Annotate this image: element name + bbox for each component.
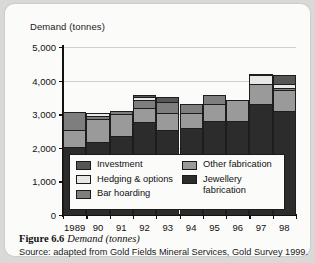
page-background: Demand (tonnes) 01,0002,0003,0004,0005,0… [0,0,315,263]
bar-segment [180,104,203,112]
bar-segment [86,116,109,119]
y-tick-label: 0 [51,210,56,221]
bar-segment [133,100,156,108]
bar-segment [249,84,272,104]
x-tick [63,215,64,219]
bar-segment [273,90,296,110]
bar-segment [273,75,296,84]
x-tick-label: 98 [279,222,290,233]
bar-segment [249,75,272,84]
legend-swatch-hedging_options [76,175,91,184]
bar-segment [273,88,296,90]
x-tick-label: 95 [209,222,220,233]
y-tick-label: 3,000 [32,109,56,120]
legend-swatch-bar_hoarding [76,190,91,199]
legend-item-jewellery_fabrication: Jewellery fabrication [182,174,272,197]
bar-segment [133,97,156,99]
x-tick [203,215,204,219]
bar-segment [203,95,226,103]
x-tick [156,215,157,219]
bar-segment [63,112,86,130]
figure-caption: Figure 6.6 Demand (tonnes) [19,232,140,244]
y-tick-label: 4,000 [32,75,56,86]
figure-title: Demand (tonnes) [67,233,140,244]
bar-segment [156,102,179,113]
x-tick [249,215,250,219]
bar-segment [180,113,203,128]
bar-segment [156,113,179,130]
y-tick-label: 2,000 [32,142,56,153]
x-tick-label: 93 [163,222,174,233]
legend-item-bar_hoarding: Bar hoarding [76,188,173,200]
x-tick [296,215,297,219]
x-tick [86,215,87,219]
bar-segment [156,97,179,101]
legend-item-other_fabrication: Other fabrication [182,159,272,171]
figure-source: Source: adapted from Gold Fields Mineral… [19,247,308,257]
x-tick [273,215,274,219]
legend-column-left: InvestmentHedging & optionsBar hoarding [76,159,173,203]
legend-swatch-investment [76,161,91,170]
bar-segment [133,95,156,97]
figure-number: Figure 6.6 [19,233,64,244]
figure-card: Demand (tonnes) 01,0002,0003,0004,0005,0… [5,4,310,256]
bar-segment [63,130,86,147]
x-tick [110,215,111,219]
bar-segment [226,100,249,121]
x-tick [226,215,227,219]
x-tick [180,215,181,219]
legend-label-other_fabrication: Other fabrication [203,159,272,171]
legend-label-investment: Investment [97,159,142,171]
y-axis-title: Demand (tonnes) [30,21,105,32]
x-tick-label: 96 [232,222,243,233]
legend-swatch-other_fabrication [182,161,197,170]
bar-segment [133,108,156,122]
legend-column-right: Other fabricationJewellery fabrication [182,159,272,200]
legend-label-hedging_options: Hedging & options [97,174,173,186]
bar-segment [86,119,109,143]
legend-swatch-jewellery_fabrication [182,175,197,184]
bar-segment [249,74,272,75]
bar-segment [110,111,133,114]
legend-label-bar_hoarding: Bar hoarding [97,188,150,200]
x-tick-label: 94 [186,222,197,233]
bar-segment [86,113,109,116]
x-tick-label: 97 [256,222,267,233]
bar-segment [203,104,226,121]
x-tick [133,215,134,219]
chart-legend: InvestmentHedging & optionsBar hoarding … [69,154,285,210]
legend-item-hedging_options: Hedging & options [76,174,173,186]
legend-label-jewellery_fabrication: Jewellery fabrication [203,174,246,197]
y-tick-label: 5,000 [32,42,56,53]
x-tick-label: 92 [139,222,150,233]
y-tick-label: 1,000 [32,176,56,187]
bar-segment [273,84,296,88]
legend-item-investment: Investment [76,159,173,171]
bar-segment [110,114,133,137]
